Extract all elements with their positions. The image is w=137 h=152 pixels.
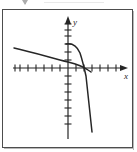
y-axis-label: y (72, 17, 77, 27)
y-axis-arrow-icon (65, 16, 71, 24)
frame-shadow-bottom (4, 148, 134, 149)
x-axis-label: x (123, 71, 128, 81)
partial-rule-line (44, 2, 104, 3)
partial-tick-mark (25, 0, 26, 4)
coordinate-plane: y x (2, 9, 133, 148)
frame-shadow-right (133, 11, 134, 150)
figure-root: y x (0, 0, 137, 152)
curve-steep-decreasing (66, 44, 92, 132)
cropped-artifact-above (0, 0, 137, 9)
